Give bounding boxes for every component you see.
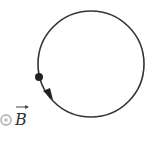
circular-path [38,11,144,117]
field-label: B [15,112,27,128]
particle [35,73,43,81]
field-out-of-page-icon [1,115,11,125]
vector-arrow-icon [16,105,29,109]
